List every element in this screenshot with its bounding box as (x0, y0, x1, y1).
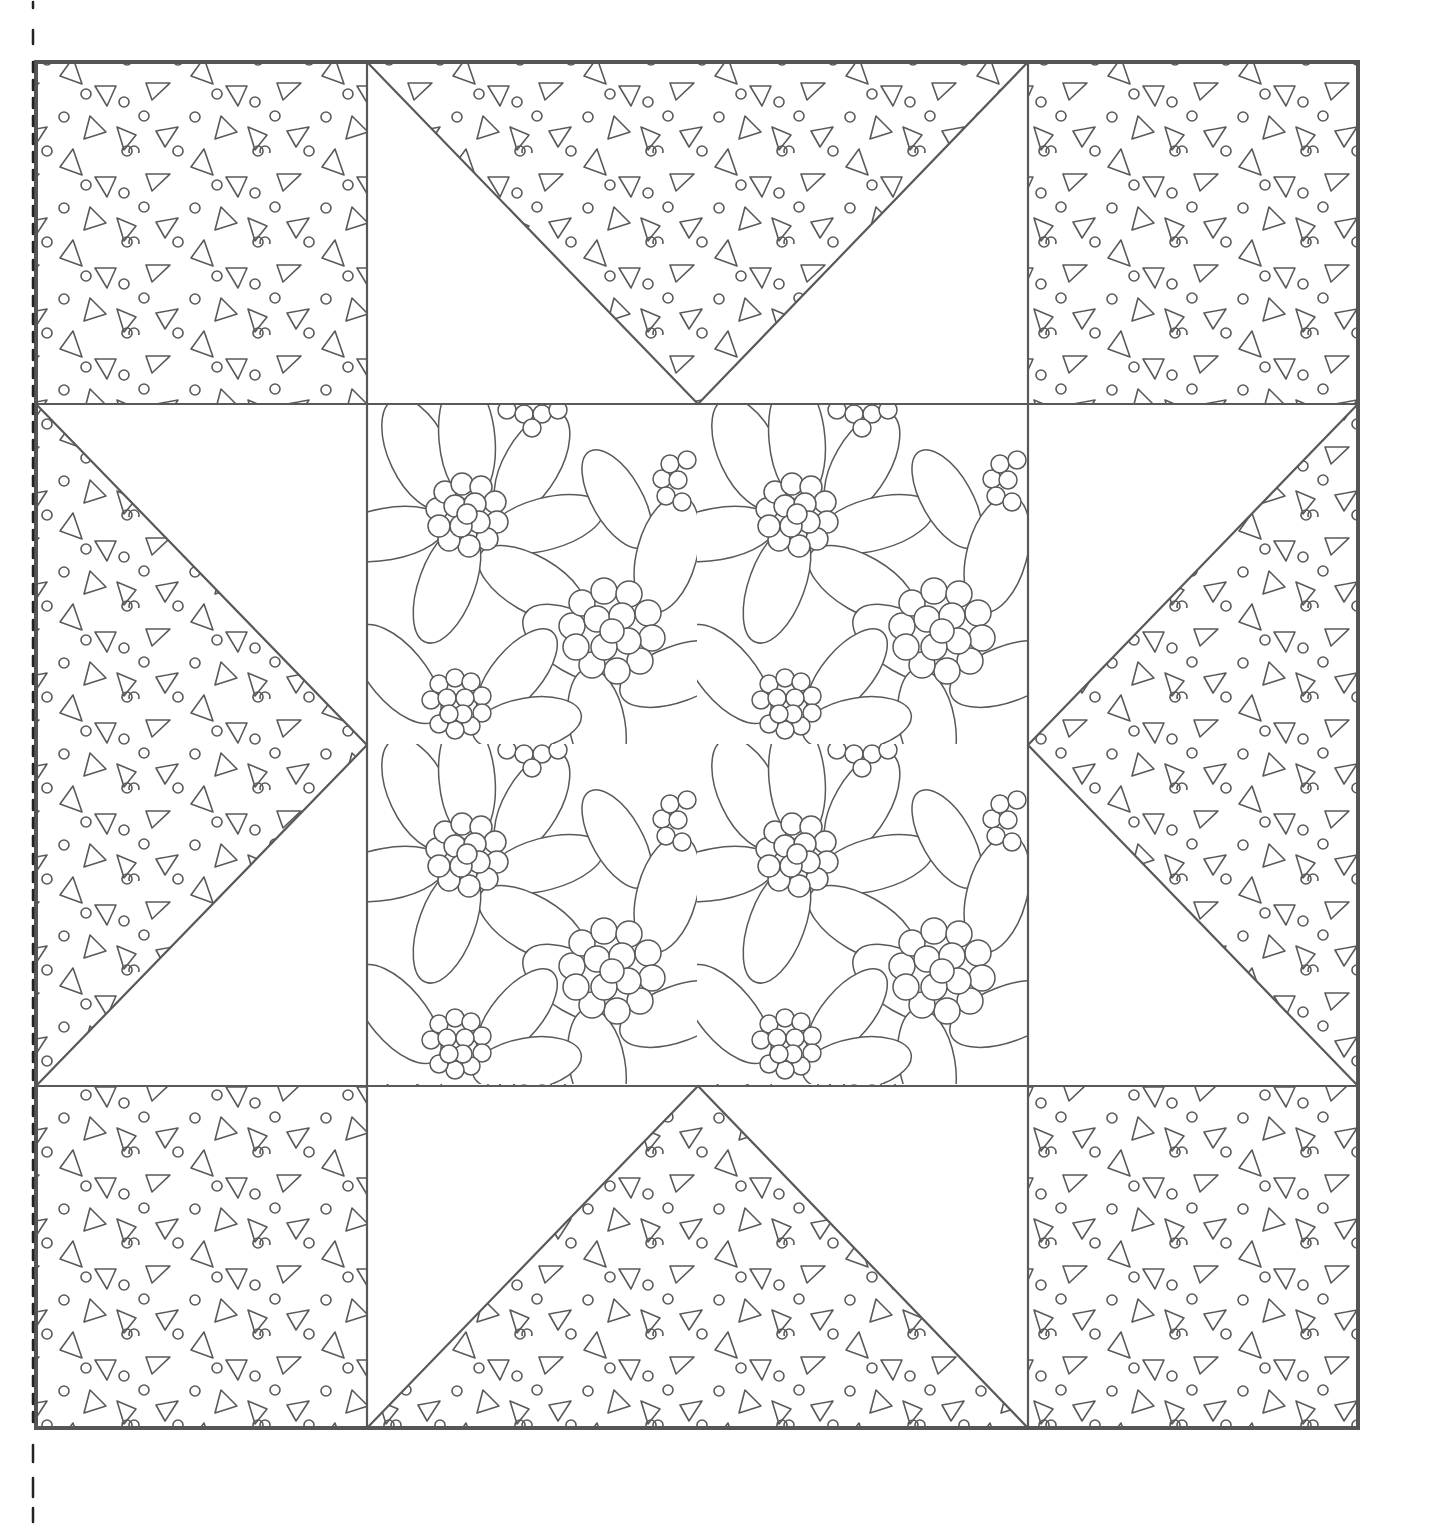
star-point-left (36, 404, 367, 1086)
corner-top-left[interactable] (36, 62, 367, 404)
star-point-bottom (367, 1086, 1028, 1428)
corner-bottom-right[interactable] (1028, 1086, 1358, 1428)
quilt-block (0, 0, 1446, 1530)
star-point-right (1028, 404, 1358, 1086)
corner-top-right[interactable] (1028, 62, 1358, 404)
center-square[interactable] (367, 404, 1028, 1086)
corner-bottom-left[interactable] (36, 1086, 367, 1428)
star-point-top (367, 62, 1028, 404)
